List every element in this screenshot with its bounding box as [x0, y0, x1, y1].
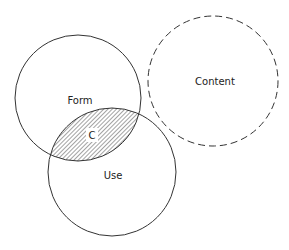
- use-label: Use: [104, 170, 123, 181]
- venn-diagram: Form C Use Content: [0, 0, 289, 250]
- form-label: Form: [67, 95, 92, 106]
- content-label: Content: [195, 76, 235, 87]
- intersection-label: C: [89, 130, 96, 141]
